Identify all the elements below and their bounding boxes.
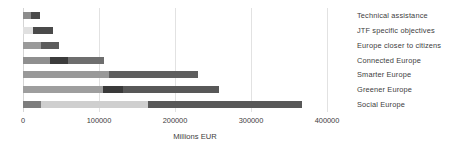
category-label: Europe closer to citizens xyxy=(357,41,441,50)
bar-segment[interactable] xyxy=(123,86,220,93)
bar-chart: Technical assistanceJTF specific objecti… xyxy=(0,0,466,160)
category-label: Connected Europe xyxy=(357,56,421,65)
x-tick-label: 300000 xyxy=(239,116,264,126)
x-tick-label: 0 xyxy=(21,116,25,126)
category-label: Technical assistance xyxy=(357,11,428,20)
bar-segment[interactable] xyxy=(68,57,104,64)
x-axis-ticks: 0100000200000300000400000 xyxy=(23,116,327,128)
bar-row[interactable] xyxy=(23,71,198,78)
bar-segment[interactable] xyxy=(23,101,41,108)
bar-segment[interactable] xyxy=(41,101,147,108)
bar-segment[interactable] xyxy=(148,101,302,108)
bar-row[interactable] xyxy=(23,57,104,64)
bar-segment[interactable] xyxy=(103,86,123,93)
category-label: Greener Europe xyxy=(357,85,412,94)
bar-segment[interactable] xyxy=(23,86,103,93)
category-label: Social Europe xyxy=(357,100,405,109)
bar-segment[interactable] xyxy=(23,57,50,64)
bar-series-group xyxy=(23,8,327,112)
x-axis-title: Millions EUR xyxy=(0,132,390,142)
x-tick-label: 200000 xyxy=(163,116,188,126)
bar-segment[interactable] xyxy=(23,12,31,19)
x-tick-label: 100000 xyxy=(87,116,112,126)
bar-segment[interactable] xyxy=(23,42,41,49)
bar-segment[interactable] xyxy=(23,27,33,34)
bar-row[interactable] xyxy=(23,27,53,34)
gridline xyxy=(327,8,328,112)
bar-segment[interactable] xyxy=(50,57,68,64)
bar-row[interactable] xyxy=(23,86,219,93)
bar-row[interactable] xyxy=(23,101,302,108)
bar-segment[interactable] xyxy=(33,27,54,34)
bar-row[interactable] xyxy=(23,42,59,49)
bar-segment[interactable] xyxy=(23,71,109,78)
category-label: JTF specific objectives xyxy=(357,26,435,35)
category-label: Smarter Europe xyxy=(357,70,411,79)
x-tick-label: 400000 xyxy=(315,116,340,126)
bar-segment[interactable] xyxy=(109,71,198,78)
category-label-list: Technical assistanceJTF specific objecti… xyxy=(357,8,466,112)
bar-segment[interactable] xyxy=(41,42,59,49)
bar-row[interactable] xyxy=(23,12,40,19)
bar-segment[interactable] xyxy=(31,12,40,19)
plot-area xyxy=(23,8,327,112)
